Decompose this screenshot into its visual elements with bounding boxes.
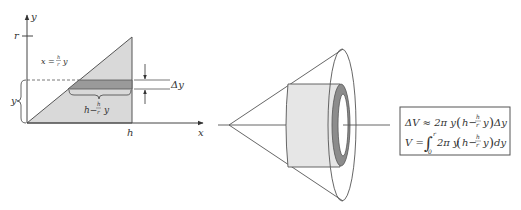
svg-text:(: (: [456, 115, 461, 130]
shell-method-diagram: y r h x y Δy x = h r y h− h r y: [0, 0, 521, 210]
svg-text:r: r: [57, 61, 60, 67]
svg-text:h: h: [57, 54, 60, 60]
svg-text:h: h: [97, 101, 101, 107]
r-tick-label: r: [14, 30, 20, 41]
svg-text:y: y: [103, 105, 110, 115]
svg-text:r: r: [97, 109, 100, 115]
svg-text:y: y: [482, 137, 489, 148]
horizontal-strip: [68, 80, 132, 89]
delta-y-label: Δy: [170, 79, 184, 90]
left-figure: y r h x y Δy x = h r y h− h r y: [10, 11, 204, 138]
diagram-canvas: y r h x y Δy x = h r y h− h r y: [0, 0, 521, 210]
svg-text:h: h: [476, 133, 480, 140]
svg-text:h: h: [476, 113, 480, 120]
x-axis-label: x: [198, 127, 204, 138]
svg-text:dy: dy: [494, 137, 506, 148]
svg-text:h−: h−: [462, 117, 477, 128]
h-tick-label: h: [127, 127, 133, 138]
svg-text:0: 0: [428, 148, 432, 155]
y-brace-label: y: [10, 95, 17, 106]
svg-text:y: y: [482, 117, 489, 128]
svg-text:h−: h−: [462, 137, 477, 148]
curve-equation: x = h r y: [41, 54, 68, 67]
y-brace: [17, 80, 26, 123]
svg-text:V =: V =: [405, 137, 424, 148]
svg-text:h−: h−: [84, 105, 97, 115]
cone-figure: [218, 49, 390, 201]
svg-text:Δy: Δy: [493, 117, 507, 128]
svg-text:y: y: [62, 57, 68, 66]
y-axis-label: y: [30, 11, 37, 22]
svg-text:x =: x =: [41, 57, 55, 66]
svg-text:ΔV ≈ 2π y: ΔV ≈ 2π y: [404, 117, 456, 128]
svg-text:(: (: [456, 135, 461, 150]
